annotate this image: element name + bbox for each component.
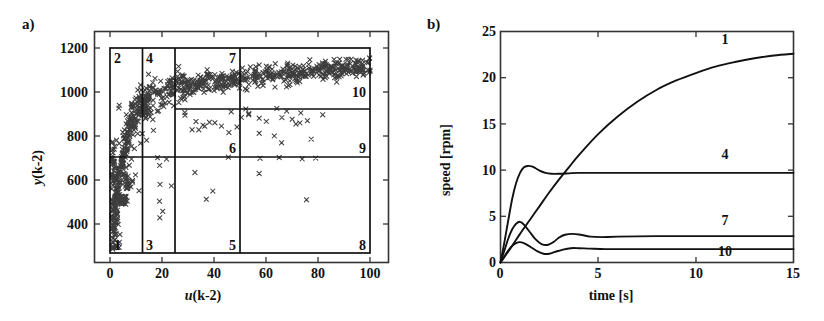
cell-label-7: 7	[229, 51, 236, 66]
panel-b-plot: 14710	[412, 0, 824, 321]
cell-label-2: 2	[114, 51, 121, 66]
curve-7	[501, 222, 794, 263]
cell-label-3: 3	[146, 238, 153, 253]
cell-label-4: 4	[146, 51, 153, 66]
panel-b-curve-labels: 14710	[718, 32, 732, 258]
curve-1	[501, 54, 794, 263]
panel-b-curves	[501, 54, 794, 263]
curve-label-4: 4	[722, 147, 729, 162]
cell-label-1: 1	[114, 238, 121, 253]
cell-label-5: 5	[229, 238, 236, 253]
panel-a-plot: 2 4 7 10 6 9 1 3 5 8	[0, 0, 412, 321]
panel-b-axes-frame	[501, 32, 794, 263]
cell-label-6: 6	[229, 141, 236, 156]
cell-label-8: 8	[359, 238, 366, 253]
panel-a: a) y(k-2) u(k-2) 1200 1000 800 600 400 0…	[0, 0, 412, 321]
curve-label-10: 10	[718, 244, 732, 259]
panel-b: b) speed [rpm] time [s] 25 20 15 10 5 0 …	[412, 0, 824, 321]
curve-4	[501, 166, 794, 263]
panel-a-partition-grid	[110, 48, 370, 253]
cell-label-9: 9	[359, 141, 366, 156]
curve-label-1: 1	[722, 32, 729, 47]
cell-label-10: 10	[352, 85, 366, 100]
figure-root: a) y(k-2) u(k-2) 1200 1000 800 600 400 0…	[0, 0, 824, 321]
curve-label-7: 7	[722, 213, 729, 228]
